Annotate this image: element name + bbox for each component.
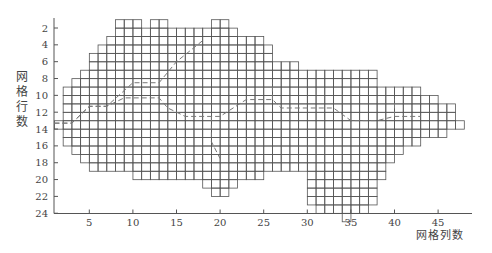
x-tick-label: 15 (170, 217, 183, 228)
y-tick-label: 20 (35, 174, 48, 185)
y-axis-label: 网格行数 (14, 70, 30, 130)
y-tick-label: 2 (42, 23, 48, 34)
y-tick-label: 12 (35, 107, 48, 118)
y-tick-label: 18 (35, 157, 48, 168)
grid-cells (54, 20, 464, 222)
y-tick-label: 16 (35, 140, 48, 151)
x-tick-label: 40 (388, 217, 401, 228)
x-axis-label: 网格列数 (416, 226, 464, 242)
x-tick-label: 35 (345, 217, 358, 228)
y-tick-label: 8 (42, 73, 48, 84)
x-tick-label: 25 (257, 217, 270, 228)
x-tick-label: 10 (127, 217, 140, 228)
x-tick-label: 5 (86, 217, 92, 228)
y-tick-label: 14 (35, 124, 48, 135)
y-tick-label: 10 (35, 90, 48, 101)
x-tick-label: 20 (214, 217, 227, 228)
grid-chart: 2468101214161820222451015202530354045 (0, 0, 492, 253)
y-tick-label: 4 (42, 39, 48, 50)
y-tick-label: 22 (35, 191, 48, 202)
y-tick-label: 24 (35, 208, 48, 219)
y-tick-label: 6 (42, 56, 48, 67)
x-tick-label: 30 (301, 217, 314, 228)
